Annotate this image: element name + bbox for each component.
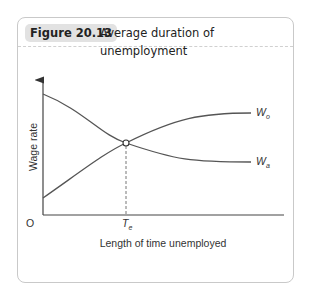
series-label-wo: Wo (256, 106, 270, 120)
origin-label: O (26, 217, 34, 229)
y-axis-label: Wage rate (27, 123, 39, 171)
x-axis-label: Length of time unemployed (100, 237, 227, 249)
series-wa-curve (43, 94, 251, 162)
intersection-marker (123, 140, 129, 146)
x-tick-label-te: Te (122, 217, 132, 231)
series-wo-curve (43, 113, 251, 198)
chart-svg: O Wage rate Length of time unemployed Te… (0, 0, 312, 304)
series-label-wa: Wa (256, 155, 270, 169)
